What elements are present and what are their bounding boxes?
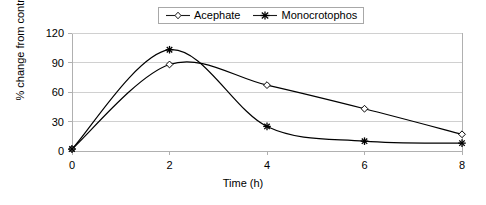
y-tick-label: 0 [58,145,64,157]
data-point-marker-asterisk [361,137,369,145]
series-lines [72,50,462,149]
chart-container: Acephate Monocrotophos % change from con… [0,0,486,205]
y-tick-label: 90 [52,57,64,69]
y-tick-label: 60 [52,86,64,98]
series-markers [68,46,466,153]
x-axis-ticks: 02468 [69,151,465,171]
y-tick-label: 120 [46,27,64,39]
y-tick-label: 30 [52,116,64,128]
series-line-monocrotophos [72,50,462,149]
y-axis-ticks: 0306090120 [46,27,72,157]
x-tick-label: 0 [69,159,75,171]
data-point-marker-open-diamond [361,105,368,112]
data-point-marker-asterisk [68,145,76,153]
data-point-marker-open-diamond [264,82,271,89]
data-point-marker-open-diamond [459,131,466,138]
data-point-marker-asterisk [166,46,174,54]
series-line-acephate [72,62,462,149]
data-point-marker-asterisk [458,139,466,147]
data-point-marker-asterisk [263,123,271,131]
plot-area: 0306090120 02468 [0,0,486,205]
x-tick-label: 6 [361,159,367,171]
x-tick-label: 2 [166,159,172,171]
x-tick-label: 8 [459,159,465,171]
x-tick-label: 4 [264,159,270,171]
gridlines [72,33,462,151]
